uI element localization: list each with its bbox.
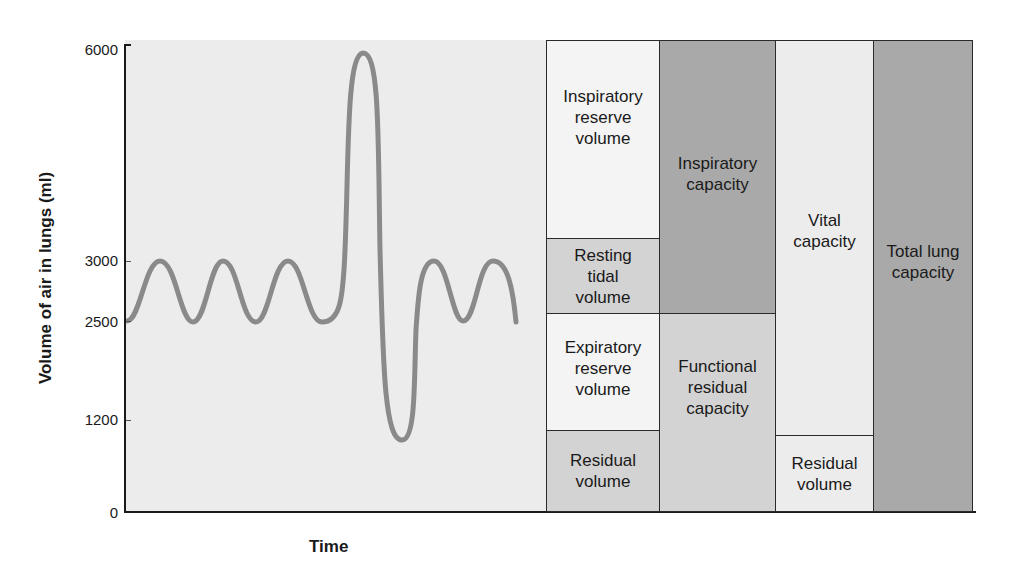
box-label: Expiratory reserve volume [553,337,653,400]
box-label: Vital capacity [785,210,865,252]
resting-tidal-volume-box: Resting tidal volume [546,238,660,314]
box-label: Residual volume [782,453,867,495]
x-axis-label: Time [309,537,348,557]
box-label: Total lung capacity [883,241,963,283]
y-tick-label: 6000 [85,42,118,58]
box-label: Residual volume [558,450,648,492]
y-tick-label: 2500 [85,314,118,330]
y-axis-label: Volume of air in lungs (ml) [36,172,56,384]
tick-2500 [126,321,131,322]
y-axis [124,44,126,513]
box-label: Resting tidal volume [563,245,643,308]
tick-3000 [126,261,131,262]
tick-1200 [126,420,131,421]
box-label: Inspiratory capacity [668,153,768,195]
inspiratory-capacity-box: Inspiratory capacity [659,40,776,314]
y-tick-label: 1200 [85,412,118,428]
y-tick-label: 0 [110,505,118,521]
total-lung-capacity-box: Total lung capacity [873,40,973,512]
expiratory-reserve-volume-box: Expiratory reserve volume [546,313,660,431]
vital-capacity-box: Vital capacity [775,40,874,436]
residual-volume-box-1: Residual volume [546,430,660,512]
box-label: Functional residual capacity [668,356,768,419]
y-tick-label: 3000 [85,253,118,269]
residual-volume-box-2: Residual volume [775,435,874,512]
y-axis-top-bracket [124,44,131,46]
inspiratory-reserve-volume-box: Inspiratory reserve volume [546,40,660,239]
functional-residual-capacity-box: Functional residual capacity [659,313,776,512]
box-label: Inspiratory reserve volume [553,86,653,149]
